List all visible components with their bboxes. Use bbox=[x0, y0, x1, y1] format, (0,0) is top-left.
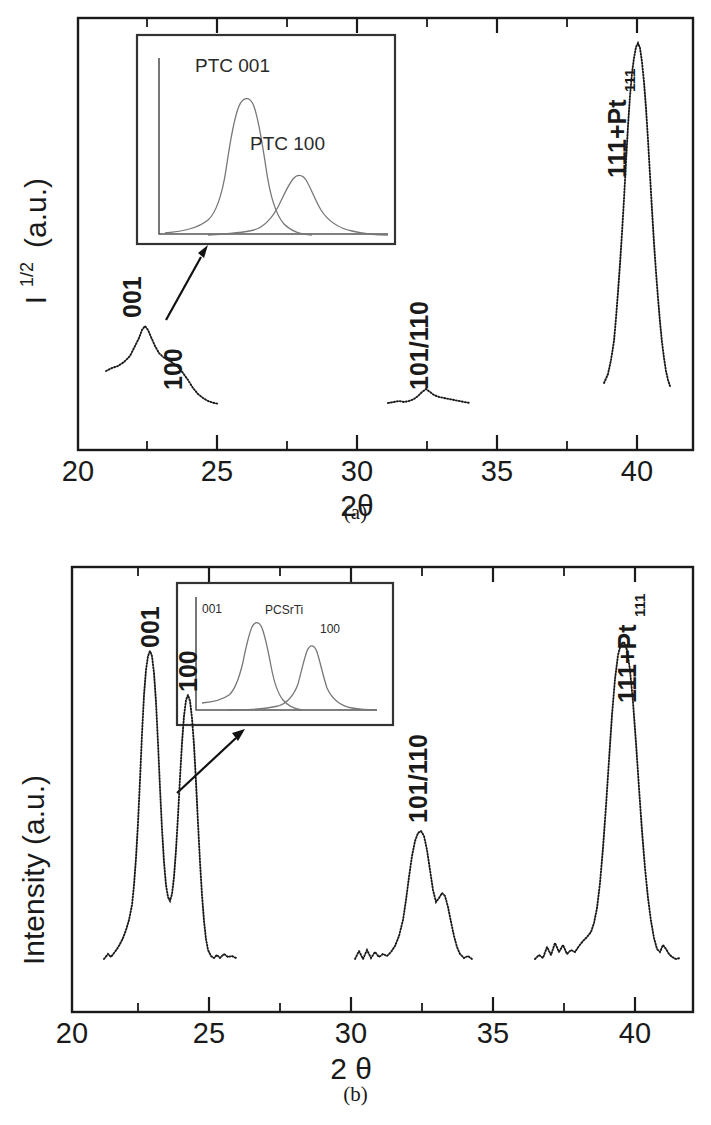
peak-label-b-111-pt: 111+Pt 111 bbox=[613, 594, 648, 703]
peak-label-b-001-text: 001 bbox=[136, 606, 164, 648]
panel-a-y-axis-label: I 1/2 (a.u.) bbox=[17, 178, 52, 304]
x-tick-label-b-4: 40 bbox=[619, 1017, 651, 1049]
bottom-ticks-a bbox=[147, 435, 637, 450]
inset-pointer-arrow-a bbox=[166, 245, 208, 320]
top-ticks-a bbox=[147, 18, 637, 33]
x-axis-label-b: 2 θ bbox=[330, 1052, 372, 1085]
inset-b-label-1: PCSrTi bbox=[265, 603, 303, 617]
x-tick-label-b-1: 25 bbox=[193, 1017, 225, 1049]
data-trace-a-101-110 bbox=[388, 389, 470, 403]
x-tick-label-b-3: 35 bbox=[477, 1017, 509, 1049]
x-tick-label-b-2: 30 bbox=[335, 1017, 367, 1049]
y-axis-label-a-sup: 1/2 bbox=[17, 262, 37, 287]
inset-a-label-0: PTC 001 bbox=[195, 55, 270, 76]
top-ticks-b bbox=[138, 567, 635, 582]
peak-label-b-101-110: 101/110 bbox=[404, 734, 432, 823]
peak-label-a-111-pt-text: 111+Pt bbox=[603, 99, 631, 178]
panel-b: Intensity (a.u.) 20 bbox=[0, 540, 711, 1125]
data-trace-b-111-pt bbox=[535, 642, 680, 959]
y-axis-label-a-unit: (a.u.) bbox=[19, 178, 52, 248]
panel-b-caption: (b) bbox=[0, 1082, 711, 1107]
panel-b-svg: Intensity (a.u.) 20 bbox=[0, 540, 711, 1125]
x-tick-label-b-0: 20 bbox=[56, 1017, 88, 1049]
y-axis-label-a-main: I bbox=[19, 296, 52, 304]
inset-a: PTC 001 PTC 100 bbox=[137, 35, 395, 244]
data-trace-b-101-110 bbox=[355, 831, 472, 959]
x-tick-labels-b: 20 25 30 35 40 bbox=[56, 1017, 651, 1049]
peak-label-a-001-text: 001 bbox=[118, 276, 146, 318]
x-tick-label-a-4: 40 bbox=[621, 455, 653, 487]
y-axis-label-b-text: Intensity (a.u.) bbox=[17, 775, 50, 965]
peak-label-b-101-110-text: 101/110 bbox=[404, 734, 432, 823]
bottom-ticks-b bbox=[138, 997, 635, 1012]
peak-label-b-111-pt-sub: 111 bbox=[631, 594, 648, 617]
inset-pointer-arrow-b bbox=[177, 729, 245, 793]
x-tick-label-a-1: 25 bbox=[201, 455, 233, 487]
peak-label-b-100-text: 100 bbox=[174, 650, 202, 692]
peak-label-b-111-pt-text: 111+Pt bbox=[613, 624, 641, 703]
peak-label-b-001: 001 bbox=[136, 606, 164, 648]
peak-label-a-111-pt: 111+Pt 111 bbox=[603, 69, 638, 178]
peak-label-a-111-pt-sub: 111 bbox=[621, 69, 638, 92]
data-trace-a-111-pt bbox=[604, 43, 670, 386]
x-tick-labels-a: 20 25 30 35 40 bbox=[62, 455, 653, 487]
peak-label-a-100-text: 100 bbox=[159, 348, 187, 390]
panel-b-y-axis-label: Intensity (a.u.) bbox=[17, 775, 50, 965]
panel-a: I 1/2 (a.u.) bbox=[0, 0, 711, 540]
panel-a-svg: I 1/2 (a.u.) bbox=[0, 0, 711, 540]
x-tick-label-a-3: 35 bbox=[481, 455, 513, 487]
peak-label-b-100: 100 bbox=[174, 650, 202, 692]
inset-b-label-2: 100 bbox=[320, 622, 340, 636]
inset-b: 001 PCSrTi 100 bbox=[177, 583, 393, 725]
inset-a-label-1: PTC 100 bbox=[250, 133, 325, 154]
peak-label-a-101-110: 101/110 bbox=[405, 301, 433, 390]
x-tick-label-a-0: 20 bbox=[62, 455, 94, 487]
x-tick-label-a-2: 30 bbox=[341, 455, 373, 487]
peak-label-a-101-110-text: 101/110 bbox=[405, 301, 433, 390]
peak-label-a-001: 001 bbox=[118, 276, 146, 318]
inset-b-label-0: 001 bbox=[202, 602, 222, 616]
peak-label-a-100: 100 bbox=[159, 348, 187, 390]
panel-a-caption: (a) bbox=[0, 500, 711, 525]
